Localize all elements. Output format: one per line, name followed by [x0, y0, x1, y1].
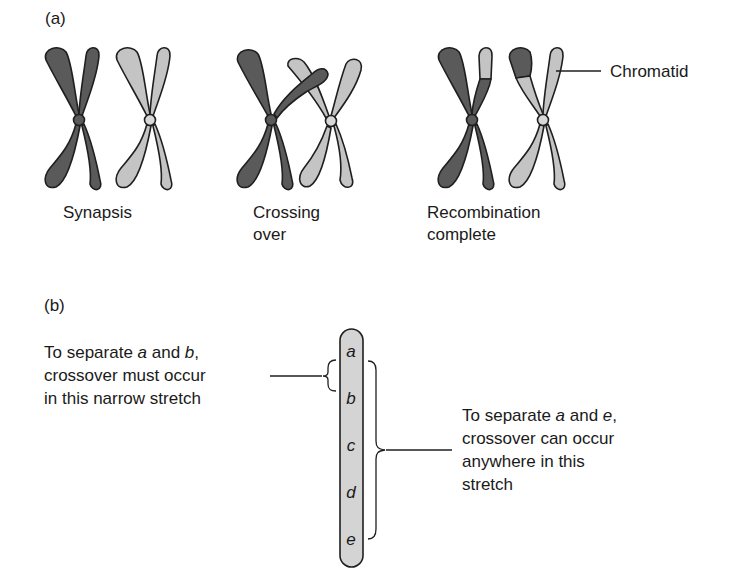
note-line: in this narrow stretch — [44, 387, 206, 410]
caption-line: complete — [427, 224, 540, 246]
note-line: stretch — [462, 473, 617, 496]
text: and — [147, 343, 185, 362]
caption-synapsis: Synapsis — [63, 202, 132, 224]
narrow-stretch-note: To separate a and b, crossover must occu… — [44, 341, 206, 410]
recombined-light-chromosome — [509, 48, 565, 190]
gene-ref: b — [185, 343, 194, 362]
text: To separate — [462, 406, 556, 425]
synapsis-dark-chromosome — [45, 48, 101, 190]
chromatid-label: Chromatid — [610, 61, 688, 83]
gene-b: b — [340, 389, 362, 409]
caption-crossing-over: Crossing over — [253, 202, 320, 246]
gene-ref: e — [603, 406, 612, 425]
caption-line: over — [253, 224, 320, 246]
text: , — [194, 343, 199, 362]
gene-a: a — [340, 342, 362, 362]
caption-recombination-complete: Recombination complete — [427, 202, 540, 246]
note-line: crossover must occur — [44, 364, 206, 387]
narrow-brace — [323, 360, 336, 391]
note-line: To separate a and e, — [462, 404, 617, 427]
note-line: crossover can occur — [462, 427, 617, 450]
panel-b-label: (b) — [44, 296, 65, 316]
gene-c: c — [340, 436, 362, 456]
synapsis-light-chromosome — [116, 48, 172, 190]
gene-ref: a — [138, 343, 147, 362]
text: , — [612, 406, 617, 425]
note-line: To separate a and b, — [44, 341, 206, 364]
caption-line: Recombination — [427, 202, 540, 224]
wide-brace — [368, 361, 385, 539]
note-line: anywhere in this — [462, 450, 617, 473]
gene-d: d — [340, 483, 362, 503]
gene-e: e — [340, 530, 362, 550]
text: To separate — [44, 343, 138, 362]
diagram-graphics — [0, 0, 743, 583]
text: and — [565, 406, 603, 425]
wide-stretch-note: To separate a and e, crossover can occur… — [462, 404, 617, 496]
caption-line: Crossing — [253, 202, 320, 224]
gene-ref: a — [556, 406, 565, 425]
caption-line: Synapsis — [63, 202, 132, 224]
recombined-dark-chromosome — [438, 48, 494, 190]
